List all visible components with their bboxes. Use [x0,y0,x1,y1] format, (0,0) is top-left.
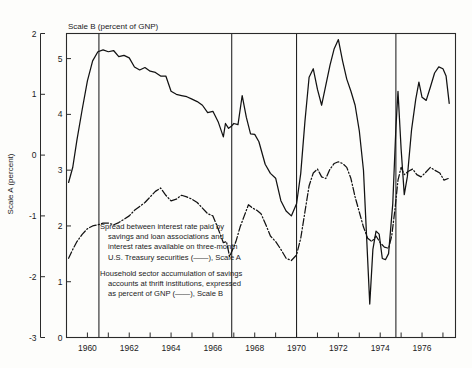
figure-container: -3-2-1012 Scale A (percent) Scale B (per… [0,0,472,368]
y-tick-scale-b: 4 [58,109,63,119]
annotation-line: savings and loan associations and [108,232,224,241]
x-tick-label: 1962 [120,343,139,353]
annotation-line: Spread between interest rate paid by [100,222,224,231]
chart-background [0,0,472,368]
annotation-line: accounts at thrift institutions, express… [108,279,241,288]
annotation-line: as percent of GNP (——), Scale B [108,289,223,298]
x-tick-label: 1974 [371,343,390,353]
y-tick-scale-a: 2 [32,29,37,39]
y-tick-scale-b: 2 [58,221,63,231]
annotation-line: U.S. Treasury securities (——), Scale A [108,253,242,262]
top-axis-scale-b-label: Scale B (percent of GNP) [68,22,159,31]
y-tick-scale-a: -2 [29,272,37,282]
y-tick-scale-a: -3 [29,333,37,343]
y-axis-scale-a-label: Scale A (percent) [6,153,15,214]
y-tick-scale-a: 1 [32,89,37,99]
annotation-series-a: Spread between interest rate paid bysavi… [100,222,242,262]
annotation-line: interest rates available on three-month [108,242,238,251]
y-tick-scale-b: 0 [58,333,63,343]
chart-canvas: -3-2-1012 Scale A (percent) Scale B (per… [0,0,472,368]
x-tick-label: 1972 [329,343,348,353]
annotation-series-b: Household sector accumulation of savings… [100,269,242,298]
x-tick-label: 1970 [287,343,306,353]
y-tick-scale-a: -1 [29,211,37,221]
annotation-line: Household sector accumulation of savings [100,269,242,278]
x-tick-label: 1966 [203,343,222,353]
x-tick-label: 1976 [413,343,432,353]
y-tick-scale-b: 5 [58,54,63,64]
x-tick-label: 1964 [162,343,181,353]
y-tick-scale-b: 3 [58,165,63,175]
x-tick-label: 1968 [245,343,264,353]
x-tick-label: 1960 [78,343,97,353]
y-tick-scale-a: 0 [32,150,37,160]
y-tick-scale-b: 1 [58,277,63,287]
